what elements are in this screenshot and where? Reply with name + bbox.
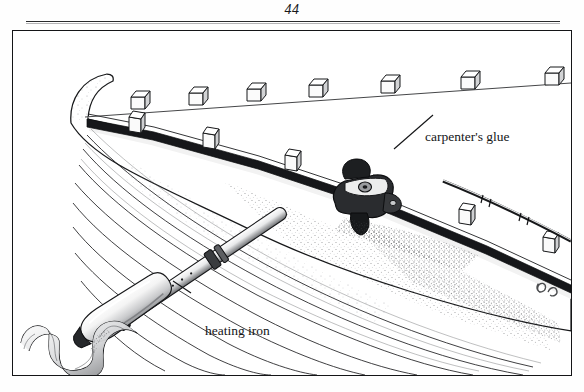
book-page: 44 [0, 0, 584, 392]
boat-hull [71, 74, 571, 375]
label-carpenters-glue: carpenter's glue [425, 129, 510, 145]
clamp-block-row-upper [85, 67, 571, 117]
header-rule [26, 21, 560, 22]
boat-illustration [13, 31, 571, 375]
illustration-frame: carpenter's glue heating iron [12, 30, 572, 376]
page-number: 44 [0, 2, 584, 18]
label-heating-iron: heating iron [205, 323, 270, 339]
